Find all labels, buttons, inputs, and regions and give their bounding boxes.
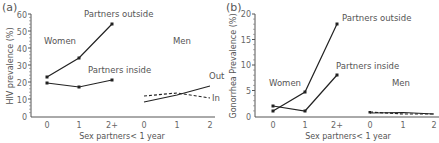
y-tick: 10	[17, 96, 27, 105]
panel-b-inside-label: Partners inside	[336, 61, 399, 71]
y-tick: 15	[241, 36, 251, 45]
x-tick: 0	[44, 121, 49, 130]
panel-a-y-axis-title: HIV prevalence (%)	[6, 27, 15, 104]
panel-a-y-tick-labels: 0 10 20 30 40 50 60	[17, 11, 27, 122]
x-tick: 0	[367, 121, 372, 130]
panel-a-in-label: In	[212, 93, 220, 103]
data-point	[78, 57, 81, 60]
data-point	[369, 111, 372, 114]
panel-b-x-axis-title: Sex partners< 1 year	[305, 132, 391, 141]
panel-b-label: (b)	[226, 1, 242, 14]
y-tick: 50	[17, 28, 27, 37]
data-point	[111, 23, 114, 26]
y-tick: 10	[241, 61, 251, 70]
panel-a-x-tick-labels: 0 1 2+ 0 1 2	[44, 121, 212, 130]
y-tick: 30	[17, 62, 27, 71]
panel-b-y-axis-title: Gonorrhea Prevalence (%)	[229, 13, 238, 118]
y-tick: 40	[17, 45, 27, 54]
x-tick: 0	[141, 121, 146, 130]
data-point	[46, 82, 49, 85]
panel-b-women-outside-line	[273, 24, 337, 111]
panel-a-women-label: Women	[44, 36, 76, 46]
panel-a-hiv-chart: (a) 0 10 20	[2, 1, 225, 141]
panel-a-men-out-line	[144, 86, 210, 102]
x-tick: 1	[76, 121, 81, 130]
data-point	[111, 79, 114, 82]
x-tick: 2	[431, 121, 436, 130]
y-tick: 0	[246, 113, 251, 122]
data-point	[272, 105, 275, 108]
panel-a-men-label: Men	[173, 36, 191, 46]
data-point	[336, 74, 339, 77]
panel-a-out-label: Out	[209, 71, 225, 81]
data-point	[46, 76, 49, 79]
x-tick: 0	[270, 121, 275, 130]
x-tick: 2	[207, 121, 212, 130]
y-tick: 20	[241, 10, 251, 19]
panel-a-outside-label: Partners outside	[84, 9, 153, 19]
y-tick: 20	[17, 79, 27, 88]
y-tick: 0	[22, 113, 27, 122]
data-point	[336, 23, 339, 26]
panel-b-gonorrhea-chart: (b) 0 5 10 15 20 Gonorrhea Prevalence (%…	[226, 1, 439, 141]
data-point	[304, 110, 307, 113]
panel-b-outside-label: Partners outside	[342, 13, 411, 23]
figure: (a) 0 10 20	[0, 0, 439, 143]
y-tick: 5	[246, 87, 251, 96]
data-point	[272, 110, 275, 113]
x-tick: 2+	[331, 121, 343, 130]
x-tick: 1	[302, 121, 307, 130]
x-tick: 2+	[106, 121, 118, 130]
panel-a-label: (a)	[2, 1, 17, 14]
data-point	[78, 86, 81, 89]
panel-b-x-tick-labels: 0 1 2+ 0 1 2	[270, 121, 436, 130]
data-point	[304, 91, 307, 94]
panel-b-men-label: Men	[392, 78, 410, 88]
y-tick: 60	[17, 11, 27, 20]
panel-a-inside-label: Partners inside	[88, 65, 151, 75]
panel-b-y-tick-labels: 0 5 10 15 20	[241, 10, 251, 122]
panel-a-x-axis-title: Sex partners< 1 year	[79, 132, 165, 141]
x-tick: 1	[400, 121, 405, 130]
x-tick: 1	[174, 121, 179, 130]
panel-b-women-label: Women	[269, 78, 301, 88]
